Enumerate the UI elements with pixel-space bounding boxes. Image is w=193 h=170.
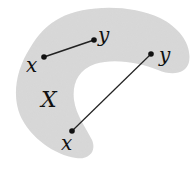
inside-segment-x-label: x <box>26 53 37 77</box>
crossing-segment-y-label: y <box>158 43 171 67</box>
nonconvex-set-diagram: x y y x X <box>0 0 193 170</box>
crossing-segment-x-label: x <box>61 131 72 155</box>
inside-segment-x-point <box>41 54 47 60</box>
set-label: X <box>39 87 58 112</box>
crossing-segment-y-point <box>148 51 154 57</box>
inside-segment-y-point <box>91 37 97 43</box>
inside-segment-y-label: y <box>97 23 110 47</box>
